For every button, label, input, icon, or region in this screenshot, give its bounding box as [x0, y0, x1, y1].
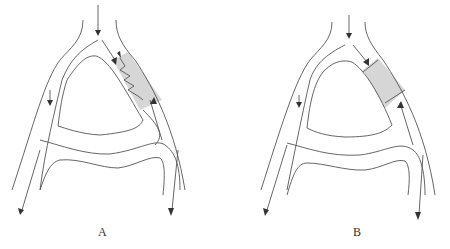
vessel-diagram-a — [0, 0, 225, 249]
arrow-down-icon — [346, 33, 352, 39]
arrow-down-icon — [415, 212, 421, 220]
arrow-down-icon — [263, 208, 269, 216]
vessel-diagram-b — [225, 0, 450, 249]
arrow-up-icon — [397, 101, 404, 108]
arrow-down-icon — [363, 58, 369, 66]
arrow-down-icon — [168, 208, 174, 216]
panel-label: A — [98, 225, 107, 240]
arrow-down-icon — [47, 100, 53, 106]
panel-b: B — [225, 0, 450, 249]
arrow-down-icon — [296, 102, 302, 108]
panel-label: B — [353, 225, 361, 240]
panel-a: A — [0, 0, 225, 249]
arrow-down-icon — [95, 30, 101, 36]
shaded-segment — [363, 58, 405, 108]
arrow-down-icon — [18, 208, 24, 215]
